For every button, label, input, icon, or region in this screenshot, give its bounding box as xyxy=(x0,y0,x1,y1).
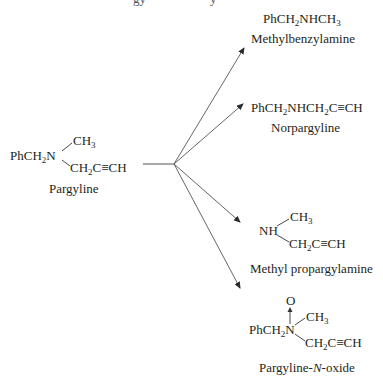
arrow-to-methyl-propargylamine xyxy=(174,164,240,222)
pargyline-label: Pargyline xyxy=(49,182,99,196)
arrow-to-pargyline-n-oxide xyxy=(174,164,240,288)
pargyline-n-oxide-label: Pargyline-N-oxide xyxy=(259,361,355,375)
pargyline-methyl: CH3 xyxy=(73,134,96,148)
n-oxide-propargyl: CH2C≡CH xyxy=(305,336,362,350)
methylbenzylamine-formula: PhCH2NHCH3 xyxy=(263,12,341,26)
bond-n-ch3 xyxy=(295,318,305,325)
norpargyline-label: Norpargyline xyxy=(271,121,340,135)
arrow-to-methylbenzylamine xyxy=(174,48,244,164)
n-oxide-methyl: CH3 xyxy=(306,310,329,324)
bond-nh-ch3 xyxy=(277,219,289,226)
bond-nh-ch2 xyxy=(277,235,289,242)
methyl-propargylamine-nh: NH xyxy=(259,224,278,238)
arrow-to-norpargyline xyxy=(174,104,243,164)
bond-n-ch3 xyxy=(62,143,72,151)
bond-n-ch2 xyxy=(62,160,70,166)
n-oxide-n-group: PhCH2N xyxy=(249,323,295,337)
methyl-propargylamine-propargyl: CH2C≡CH xyxy=(289,237,346,251)
bond-n-ch2 xyxy=(295,334,305,341)
n-oxide-oxygen: O xyxy=(286,294,295,308)
norpargyline-formula: PhCH2NHCH2C≡CH xyxy=(251,101,363,115)
methyl-propargylamine-label: Methyl propargylamine xyxy=(250,262,373,276)
methyl-propargylamine-methyl: CH3 xyxy=(290,210,313,224)
methylbenzylamine-label: Methylbenzylamine xyxy=(251,32,355,46)
pargyline-propargyl: CH2C≡CH xyxy=(70,161,127,175)
pargyline-n-group: PhCH2N xyxy=(10,149,56,163)
